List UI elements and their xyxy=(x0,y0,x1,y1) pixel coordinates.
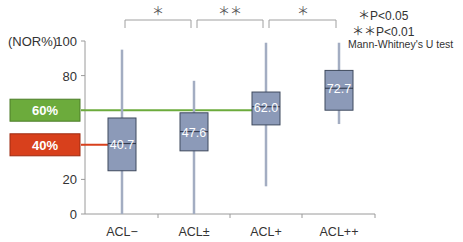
x-tick-label: ACL++ xyxy=(320,225,359,239)
y-tick-label: 0 xyxy=(70,207,77,222)
significance-marker: ＊＊ xyxy=(218,5,242,19)
significance-bracket xyxy=(197,20,263,28)
median-label: 40.7 xyxy=(110,138,134,152)
significance-marker: ＊ xyxy=(152,5,164,19)
median-label: 47.6 xyxy=(182,126,206,140)
x-tick-label: ACL− xyxy=(106,225,138,239)
reference-label-60: 60% xyxy=(32,103,58,118)
reference-label-40: 40% xyxy=(32,138,58,153)
x-tick-label: ACL+ xyxy=(250,225,282,239)
significance-marker: ＊ xyxy=(297,5,309,19)
significance-bracket xyxy=(269,20,336,28)
median-label: 62.0 xyxy=(254,101,278,115)
y-tick-label: 80 xyxy=(63,69,77,84)
median-label: 72.7 xyxy=(327,82,351,96)
significance-bracket xyxy=(125,20,191,28)
box-plot: 020406080100ACL−ACL±ACL+ACL++60%40%40.74… xyxy=(0,0,463,242)
y-tick-label: 20 xyxy=(63,172,77,187)
y-tick-label: 100 xyxy=(55,34,77,49)
x-tick-label: ACL± xyxy=(178,225,209,239)
